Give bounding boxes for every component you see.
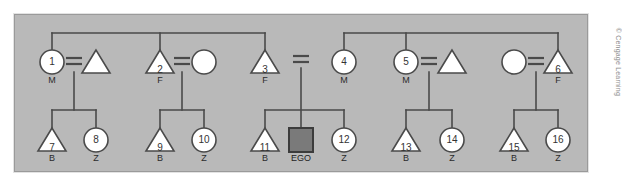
- marriage-symbol: [174, 58, 190, 64]
- node-unnumbered-circle[interactable]: [502, 50, 526, 74]
- node-2-kin-label: F: [145, 76, 175, 85]
- node-12-circle[interactable]: [332, 128, 356, 152]
- marriage-symbol: [421, 58, 437, 64]
- node-14-circle[interactable]: [440, 128, 464, 152]
- node-6-triangle[interactable]: [544, 50, 572, 73]
- node-14-kin-label: Z: [437, 154, 467, 163]
- node-16-kin-label: Z: [543, 154, 573, 163]
- node-1-circle[interactable]: [40, 50, 64, 74]
- node-ego-kin-label: EGO: [284, 154, 318, 163]
- marriage-symbol: [293, 56, 309, 62]
- node-10-circle[interactable]: [192, 128, 216, 152]
- node-11-triangle[interactable]: [251, 128, 279, 151]
- node-unnumbered-circle[interactable]: [192, 50, 216, 74]
- node-8-circle[interactable]: [84, 128, 108, 152]
- node-9-triangle[interactable]: [146, 128, 174, 151]
- node-16-circle[interactable]: [546, 128, 570, 152]
- node-13-kin-label: B: [391, 154, 421, 163]
- node-10-kin-label: Z: [189, 154, 219, 163]
- node-3-triangle[interactable]: [251, 50, 279, 73]
- copyright-credit: © Cengage Learning: [615, 28, 622, 96]
- node-8-kin-label: Z: [81, 154, 111, 163]
- node-11-kin-label: B: [250, 154, 280, 163]
- node-15-triangle[interactable]: [500, 128, 528, 151]
- node-4-circle[interactable]: [332, 50, 356, 74]
- node-5-circle[interactable]: [394, 50, 418, 74]
- node-12-kin-label: Z: [329, 154, 359, 163]
- node-7-triangle[interactable]: [38, 128, 66, 151]
- node-3-kin-label: F: [250, 76, 280, 85]
- node-5-kin-label: M: [391, 76, 421, 85]
- node-1-kin-label: M: [37, 76, 67, 85]
- marriage-symbol: [528, 58, 544, 64]
- node-6-kin-label: F: [543, 76, 573, 85]
- node-9-kin-label: B: [145, 154, 175, 163]
- node-4-kin-label: M: [329, 76, 359, 85]
- marriage-symbol: [66, 58, 82, 64]
- ego-square[interactable]: [289, 128, 313, 152]
- node-15-kin-label: B: [499, 154, 529, 163]
- node-13-triangle[interactable]: [392, 128, 420, 151]
- node-7-kin-label: B: [37, 154, 67, 163]
- node-unnumbered-triangle[interactable]: [82, 50, 110, 73]
- node-unnumbered-triangle[interactable]: [438, 50, 466, 73]
- node-2-triangle[interactable]: [146, 50, 174, 73]
